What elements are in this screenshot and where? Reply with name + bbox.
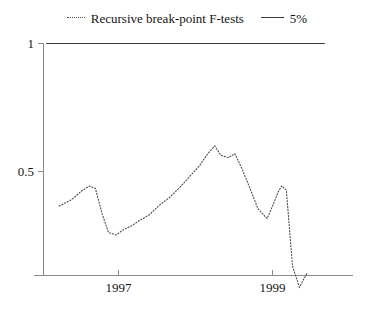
series-recursive-f-tests-line (59, 146, 307, 287)
chart-figure: Recursive break-point F-tests 5% 1 0.5 1… (0, 0, 374, 310)
axis-lines (34, 44, 353, 276)
y-tick-label-0-5: 0.5 (2, 165, 34, 179)
series-group (46, 44, 325, 288)
x-tick-label-1999: 1999 (247, 281, 298, 295)
chart-plot-area (0, 0, 374, 310)
x-tick-label-1997: 1997 (93, 281, 144, 295)
y-tick-label-1: 1 (8, 37, 34, 51)
